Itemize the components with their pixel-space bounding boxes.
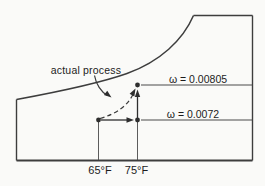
figure-canvas: actual process ω = 0.00805 ω = 0.0072 65… bbox=[0, 0, 265, 186]
temp-label-75F: 75°F bbox=[125, 164, 149, 176]
process-arrow-vertical-head bbox=[135, 90, 140, 98]
actual-process-dashed-curve bbox=[100, 93, 134, 119]
state-point-75F-0072 bbox=[135, 118, 140, 123]
state-point-75F-00805 bbox=[135, 83, 140, 88]
omega-label-00805: ω = 0.00805 bbox=[169, 73, 227, 85]
actual-process-label: actual process bbox=[51, 64, 122, 76]
saturation-curve bbox=[17, 16, 194, 100]
omega-label-0072: ω = 0.0072 bbox=[167, 108, 219, 120]
annotation-arrow-shaft bbox=[95, 76, 108, 96]
annotation-arrow-head bbox=[104, 91, 113, 100]
psychrometric-process-figure: actual process ω = 0.00805 ω = 0.0072 65… bbox=[0, 0, 265, 186]
temp-label-65F: 65°F bbox=[88, 164, 112, 176]
process-arrow-horizontal-head bbox=[127, 117, 135, 122]
state-point-65F-0072 bbox=[96, 118, 101, 123]
